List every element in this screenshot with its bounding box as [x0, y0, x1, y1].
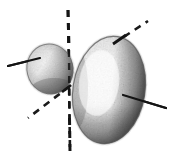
nodal-line-bottom-segment [70, 118, 71, 151]
nodal-line-top-segment [68, 10, 69, 48]
orbital-figure-container: Hybrid atomic orbital lobe diagram Shade… [0, 0, 169, 162]
orbital-diagram-svg: Hybrid atomic orbital lobe diagram Shade… [0, 0, 169, 162]
